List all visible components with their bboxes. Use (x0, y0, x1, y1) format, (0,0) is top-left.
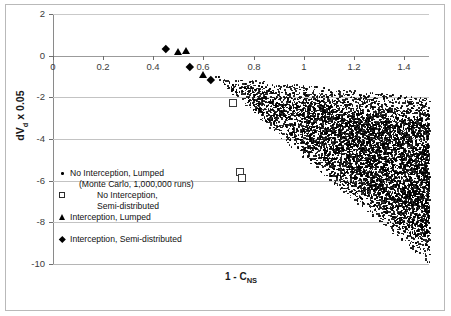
data-point-monte-carlo (390, 206, 392, 208)
data-point-monte-carlo (388, 193, 390, 195)
data-point-monte-carlo (377, 166, 379, 168)
data-point-monte-carlo (401, 196, 403, 198)
data-point-monte-carlo (308, 108, 310, 110)
data-point-monte-carlo (407, 113, 409, 115)
data-point-monte-carlo (409, 244, 411, 246)
data-point-monte-carlo (360, 113, 362, 115)
data-point-monte-carlo (244, 83, 246, 85)
data-point-monte-carlo (392, 99, 394, 101)
data-point-monte-carlo (387, 146, 389, 148)
data-point-monte-carlo (425, 129, 427, 131)
data-point-monte-carlo (358, 186, 360, 188)
data-point-monte-carlo (334, 127, 336, 129)
data-point-monte-carlo (288, 116, 290, 118)
data-point-monte-carlo (310, 94, 312, 96)
data-point-monte-carlo (320, 108, 322, 110)
data-point-monte-carlo (385, 164, 387, 166)
data-point-monte-carlo (427, 140, 429, 142)
data-point-monte-carlo (321, 116, 323, 118)
data-point-monte-carlo (400, 97, 402, 99)
data-point-monte-carlo (376, 183, 378, 185)
data-point-monte-carlo (253, 101, 255, 103)
data-point-monte-carlo (323, 146, 325, 148)
x-axis-title-sub: NS (247, 276, 257, 285)
data-point-monte-carlo (388, 176, 390, 178)
data-point-monte-carlo (406, 213, 408, 215)
data-point-monte-carlo (399, 219, 401, 221)
data-point-monte-carlo (405, 200, 407, 202)
data-point-monte-carlo (317, 142, 319, 144)
data-point-monte-carlo (253, 109, 255, 111)
data-point-monte-carlo (279, 98, 281, 100)
data-point-monte-carlo (395, 201, 397, 203)
data-point-monte-carlo (324, 117, 326, 119)
data-point-monte-carlo (308, 115, 310, 117)
data-point-monte-carlo (320, 94, 322, 96)
data-point-monte-carlo (274, 98, 276, 100)
data-point-monte-carlo (335, 141, 337, 143)
data-point-monte-carlo (305, 99, 307, 101)
data-point-monte-carlo (339, 152, 341, 154)
data-point-monte-carlo (361, 155, 363, 157)
data-point-monte-carlo (364, 147, 366, 149)
data-point-monte-carlo (423, 200, 425, 202)
data-point-monte-carlo (280, 110, 282, 112)
data-point-monte-carlo (329, 102, 331, 104)
data-point-monte-carlo (416, 125, 418, 127)
data-point-monte-carlo (294, 84, 296, 86)
data-point-monte-carlo (369, 172, 371, 174)
data-point-monte-carlo (394, 127, 396, 129)
data-point-monte-carlo (296, 140, 298, 142)
data-point-monte-carlo (421, 228, 423, 230)
data-point-monte-carlo (365, 147, 367, 149)
data-point-monte-carlo (255, 106, 257, 108)
data-point-monte-carlo (417, 247, 419, 249)
legend-label: Semi-distributed (97, 201, 159, 212)
data-point-monte-carlo (413, 108, 415, 110)
data-point-monte-carlo (376, 202, 378, 204)
data-point-filled-diamond (162, 45, 170, 53)
data-point-monte-carlo (418, 144, 420, 146)
data-point-monte-carlo (337, 155, 339, 157)
data-point-monte-carlo (408, 240, 410, 242)
data-point-monte-carlo (385, 224, 387, 226)
data-point-monte-carlo (356, 173, 358, 175)
data-point-monte-carlo (219, 79, 221, 81)
data-point-monte-carlo (351, 151, 353, 153)
data-point-monte-carlo (278, 85, 280, 87)
data-point-monte-carlo (414, 196, 416, 198)
data-point-monte-carlo (320, 130, 322, 132)
data-point-monte-carlo (314, 94, 316, 96)
data-point-monte-carlo (405, 240, 407, 242)
data-point-monte-carlo (391, 149, 393, 151)
data-point-monte-carlo (395, 195, 397, 197)
data-point-monte-carlo (419, 112, 421, 114)
data-point-monte-carlo (317, 110, 319, 112)
data-point-monte-carlo (375, 127, 377, 129)
data-point-monte-carlo (427, 151, 429, 153)
y-tick-label--10: -10 (11, 259, 45, 269)
data-point-monte-carlo (346, 169, 348, 171)
data-point-monte-carlo (401, 222, 403, 224)
data-point-monte-carlo (386, 94, 388, 96)
data-point-monte-carlo (426, 156, 428, 158)
data-point-monte-carlo (265, 86, 267, 88)
data-point-monte-carlo (385, 113, 387, 115)
data-point-monte-carlo (322, 100, 324, 102)
data-point-monte-carlo (428, 133, 430, 135)
data-point-monte-carlo (381, 131, 383, 133)
data-point-monte-carlo (426, 165, 428, 167)
data-point-monte-carlo (309, 151, 311, 153)
data-point-monte-carlo (342, 154, 344, 156)
data-point-monte-carlo (346, 171, 348, 173)
data-point-monte-carlo (384, 100, 386, 102)
data-point-monte-carlo (384, 202, 386, 204)
data-point-monte-carlo (419, 252, 421, 254)
data-point-monte-carlo (423, 197, 425, 199)
data-point-monte-carlo (421, 183, 423, 185)
data-point-monte-carlo (428, 231, 430, 233)
data-point-monte-carlo (386, 193, 388, 195)
data-point-monte-carlo (293, 129, 295, 131)
data-point-monte-carlo (342, 172, 344, 174)
data-point-monte-carlo (381, 154, 383, 156)
